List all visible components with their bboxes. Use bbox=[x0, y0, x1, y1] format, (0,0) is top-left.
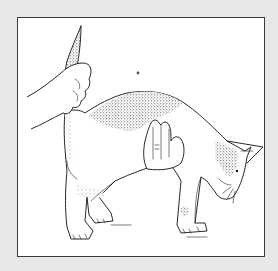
stray-ink-mark bbox=[137, 72, 140, 75]
cat-restraint-illustration bbox=[17, 17, 265, 257]
illustration-frame bbox=[17, 17, 265, 257]
illustration-page: Line illustration of a cat being restrai… bbox=[0, 0, 278, 271]
